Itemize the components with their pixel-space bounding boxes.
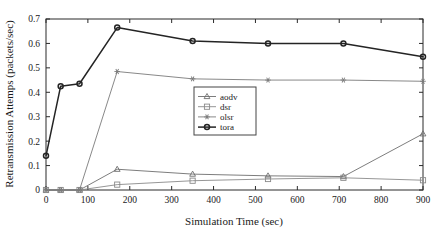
- series-line-aodv: [46, 134, 423, 190]
- line-chart: 0100200300400500600700800900 00.10.20.30…: [0, 0, 441, 234]
- chart-legend: aodvdsrolsrtora: [194, 87, 256, 135]
- data-point-marker: [114, 166, 120, 171]
- x-tick-label: 400: [206, 195, 221, 205]
- y-axis-title: Retransmission Attemps (packets/sec): [3, 20, 16, 188]
- x-tick-label: 600: [290, 195, 305, 205]
- legend-label-aodv: aodv: [220, 92, 238, 102]
- legend-label-olsr: olsr: [220, 112, 234, 122]
- y-tick-label: 0.4: [28, 88, 40, 98]
- data-point-marker: [114, 69, 120, 74]
- x-tick-label: 500: [248, 195, 263, 205]
- y-tick-label: 0.2: [28, 137, 40, 147]
- x-tick-label: 0: [44, 195, 49, 205]
- legend-label-tora: tora: [220, 122, 234, 132]
- y-tick-label: 0.3: [28, 112, 40, 122]
- data-point-marker: [190, 76, 196, 81]
- x-tick-label: 800: [374, 195, 389, 205]
- legend-label-dsr: dsr: [220, 102, 231, 112]
- data-point-marker: [265, 78, 271, 83]
- y-tick-label: 0.5: [28, 63, 40, 73]
- x-tick-label: 900: [416, 195, 431, 205]
- x-tick-label: 700: [332, 195, 347, 205]
- y-tick-label: 0.1: [28, 161, 40, 171]
- series-line-dsr: [46, 178, 423, 190]
- chart-figure: 0100200300400500600700800900 00.10.20.30…: [0, 0, 441, 234]
- x-tick-label: 200: [123, 195, 138, 205]
- x-tick-label: 300: [165, 195, 180, 205]
- y-tick-label: 0: [35, 185, 40, 195]
- data-point-marker: [341, 78, 347, 83]
- x-axis-title: Simulation Time (sec): [185, 215, 283, 228]
- y-tick-label: 0.6: [28, 39, 40, 49]
- x-tick-label: 100: [81, 195, 96, 205]
- y-tick-label: 0.7: [28, 14, 40, 24]
- y-axis-tick-labels: 00.10.20.30.40.50.60.7: [28, 14, 40, 195]
- x-axis-tick-labels: 0100200300400500600700800900: [44, 195, 431, 205]
- series-aodv: [43, 131, 426, 192]
